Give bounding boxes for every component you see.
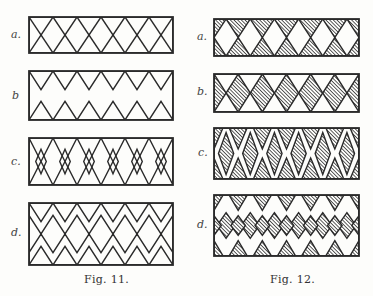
fig11-panel-b <box>29 71 173 120</box>
fig12-panel-d <box>214 195 359 256</box>
fig12-label-b: b. <box>197 85 208 98</box>
fig12-panel-a <box>214 19 359 56</box>
fig12-caption: Fig. 12. <box>270 273 315 286</box>
fig11-caption: Fig. 11. <box>84 273 129 286</box>
fig11-label-c: c. <box>11 155 21 168</box>
fig12-label-a: a. <box>197 30 207 43</box>
fig12-label-c: c. <box>198 146 208 159</box>
fig11-label-d: d. <box>11 226 22 239</box>
fig12-panel-c <box>214 128 359 179</box>
fig12-panel-b <box>214 74 359 112</box>
fig12-label-d: d. <box>197 218 208 231</box>
fig11-label-a: a. <box>11 28 21 41</box>
fig11-panel-d <box>29 203 173 265</box>
fig11-panel-c <box>29 138 173 185</box>
fig11-label-b: b <box>12 89 19 102</box>
fig11-panel-a <box>29 17 173 53</box>
